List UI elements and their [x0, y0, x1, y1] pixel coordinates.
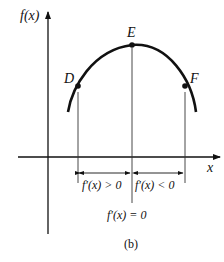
- point-f-label: F: [189, 71, 199, 86]
- x-axis-label: x: [206, 160, 214, 175]
- point-e: [129, 42, 135, 48]
- derivative-diagram: f(x) x D E F f′(x) > 0 f′(x) < 0 f′(x) =…: [0, 0, 224, 262]
- point-f: [182, 83, 188, 89]
- point-e-label: E: [126, 25, 136, 40]
- critical-point-label: f′(x) = 0: [107, 208, 146, 222]
- interval-label-left: f′(x) > 0: [82, 178, 121, 192]
- interval-label-right: f′(x) < 0: [135, 178, 174, 192]
- y-axis-label: f(x): [20, 8, 40, 24]
- figure-caption: (b): [124, 237, 138, 251]
- point-d: [75, 83, 81, 89]
- arrowhead-left-start: [78, 171, 84, 175]
- point-d-label: D: [63, 71, 74, 86]
- arrowhead-right-start: [132, 171, 138, 175]
